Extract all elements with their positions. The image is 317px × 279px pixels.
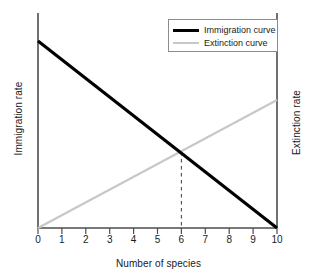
x-tick-label: 9 (243, 234, 263, 245)
series-line-extinction-curve (38, 100, 277, 228)
x-tick-label: 1 (52, 234, 72, 245)
x-tick-label: 3 (100, 234, 120, 245)
x-tick-label: 6 (171, 234, 191, 245)
legend-item-immigration-curve: Immigration curve (173, 23, 276, 37)
x-tick-label: 4 (124, 234, 144, 245)
chart-figure: 0 1 2 3 4 5 6 7 8 9 10 Number of species… (0, 0, 317, 279)
y-axis-left-title: Immigration rate (13, 54, 24, 184)
series-line-immigration-curve (38, 41, 277, 228)
x-tick-label: 2 (76, 234, 96, 245)
x-tick-label: 8 (219, 234, 239, 245)
legend-swatch-icon (173, 42, 199, 44)
legend-swatch-icon (173, 29, 199, 32)
x-tick-label: 0 (28, 234, 48, 245)
x-tick-label: 10 (267, 234, 287, 245)
legend-item-label: Extinction curve (204, 38, 268, 48)
x-tick-label: 5 (148, 234, 168, 245)
legend-item-extinction-curve: Extinction curve (173, 36, 268, 50)
y-axis-right-title: Extinction rate (291, 58, 302, 188)
legend: Immigration curve Extinction curve (168, 19, 278, 52)
x-tick-label: 7 (195, 234, 215, 245)
legend-item-label: Immigration curve (204, 25, 276, 35)
x-axis-title: Number of species (0, 258, 317, 269)
